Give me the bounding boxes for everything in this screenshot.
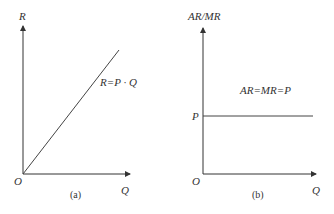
caption-b: (b) (252, 189, 264, 201)
y-axis-label-a: R (18, 10, 26, 22)
x-axis-label-a: Q (121, 184, 129, 196)
curve-label-a: R=P · Q (99, 76, 137, 88)
diagram-canvas: R O Q R=P · Q (a) AR/MR P O Q AR=MR=P (b… (0, 0, 334, 214)
caption-a: (a) (70, 189, 81, 201)
price-tick-label: P (191, 110, 199, 122)
y-axis-label-b: AR/MR (187, 10, 221, 22)
total-revenue-line (23, 50, 119, 174)
panel-b-average-marginal-revenue: AR/MR P O Q AR=MR=P (b) (187, 10, 320, 201)
origin-label-b: O (192, 175, 200, 187)
x-axis-label-b: Q (312, 184, 320, 196)
panel-a-total-revenue: R O Q R=P · Q (a) (14, 10, 137, 201)
curve-label-b: AR=MR=P (239, 84, 291, 96)
origin-label-a: O (14, 175, 22, 187)
